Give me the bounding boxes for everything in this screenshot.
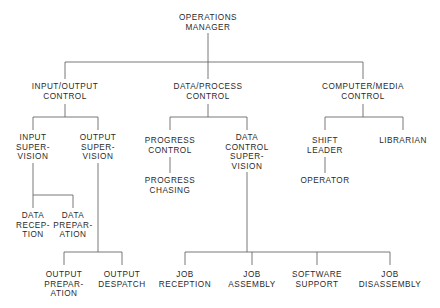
- node-shift-leader: SHIFT LEADER: [307, 136, 343, 155]
- node-operator: OPERATOR: [300, 176, 349, 186]
- node-output-preparation: OUTPUT PREPAR- ATION: [44, 270, 83, 299]
- node-progress-control: PROGRESS CONTROL: [145, 136, 195, 155]
- node-software-support: SOFTWARE SUPPORT: [292, 270, 342, 289]
- node-operations-manager: OPERATIONS MANAGER: [179, 13, 237, 32]
- node-data-preparation: DATA PREPAR- ATION: [53, 211, 92, 240]
- node-output-despatch: OUTPUT DESPATCH: [98, 270, 145, 289]
- node-data-control-supervision: DATA CONTROL SUPER- VISION: [225, 133, 269, 171]
- node-computer-media-control: COMPUTER/MEDIA CONTROL: [322, 82, 404, 101]
- node-data-reception: DATA RECEP- TION: [16, 211, 50, 240]
- org-chart: OPERATIONS MANAGER INPUT/OUTPUT CONTROL …: [0, 0, 440, 308]
- node-job-disassembly: JOB DISASSEMBLY: [359, 270, 422, 289]
- node-librarian: LIBRARIAN: [379, 136, 427, 146]
- node-input-supervision: INPUT SUPER- VISION: [16, 133, 50, 162]
- node-progress-chasing: PROGRESS CHASING: [145, 176, 195, 195]
- node-data-process-control: DATA/PROCESS CONTROL: [174, 82, 243, 101]
- node-input-output-control: INPUT/OUTPUT CONTROL: [32, 82, 99, 101]
- connector-lines: [0, 0, 440, 308]
- node-job-reception: JOB RECEPTION: [159, 270, 211, 289]
- node-output-supervision: OUTPUT SUPER- VISION: [80, 133, 117, 162]
- node-job-assembly: JOB ASSEMBLY: [228, 270, 276, 289]
